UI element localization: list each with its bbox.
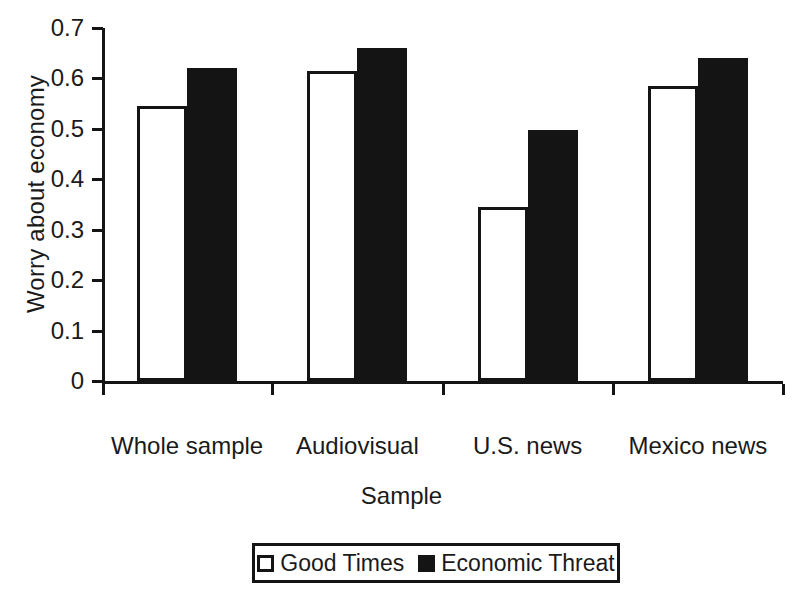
y-tick bbox=[92, 229, 103, 232]
x-tick-label: U.S. news bbox=[443, 432, 613, 460]
y-tick bbox=[92, 380, 103, 383]
y-tick bbox=[92, 77, 103, 80]
y-tick-label: 0.1 bbox=[22, 319, 84, 343]
x-tick-label: Mexico news bbox=[613, 432, 783, 460]
legend-swatch-good-times-icon bbox=[257, 555, 274, 572]
y-tick-label: 0 bbox=[22, 369, 84, 393]
y-tick-label: 0.6 bbox=[22, 66, 84, 90]
x-tick bbox=[271, 384, 274, 395]
y-tick-label: 0.4 bbox=[22, 167, 84, 191]
x-tick bbox=[612, 384, 615, 395]
legend-item: Economic Threat bbox=[418, 550, 614, 577]
legend-swatch-economic-threat-icon bbox=[418, 555, 435, 572]
bar-economic-threat bbox=[528, 130, 578, 381]
x-tick bbox=[782, 384, 785, 395]
bar-economic-threat bbox=[357, 48, 407, 381]
bar-chart-figure: Worry about economy 00.10.20.30.40.50.60… bbox=[0, 0, 803, 612]
bar-economic-threat bbox=[698, 58, 748, 381]
x-tick-label: Audiovisual bbox=[272, 432, 442, 460]
x-tick bbox=[442, 384, 445, 395]
chart-legend: Good TimesEconomic Threat bbox=[252, 543, 620, 583]
y-tick-label: 0.3 bbox=[22, 218, 84, 242]
plot-area bbox=[102, 28, 783, 384]
bar-good-times bbox=[478, 207, 528, 381]
legend-label: Good Times bbox=[280, 550, 404, 577]
bar-good-times bbox=[307, 71, 357, 381]
y-tick bbox=[92, 330, 103, 333]
bar-good-times bbox=[137, 106, 187, 381]
y-tick bbox=[92, 279, 103, 282]
legend-label: Economic Threat bbox=[441, 550, 614, 577]
y-tick bbox=[92, 128, 103, 131]
y-tick bbox=[92, 27, 103, 30]
y-tick-label: 0.7 bbox=[22, 16, 84, 40]
y-tick-label: 0.5 bbox=[22, 117, 84, 141]
y-tick-label: 0.2 bbox=[22, 268, 84, 292]
bar-good-times bbox=[648, 86, 698, 381]
bar-economic-threat bbox=[187, 68, 237, 381]
y-tick bbox=[92, 178, 103, 181]
x-axis-title: Sample bbox=[0, 482, 803, 510]
legend-item: Good Times bbox=[257, 550, 404, 577]
x-tick bbox=[102, 384, 105, 395]
x-tick-label: Whole sample bbox=[102, 432, 272, 460]
